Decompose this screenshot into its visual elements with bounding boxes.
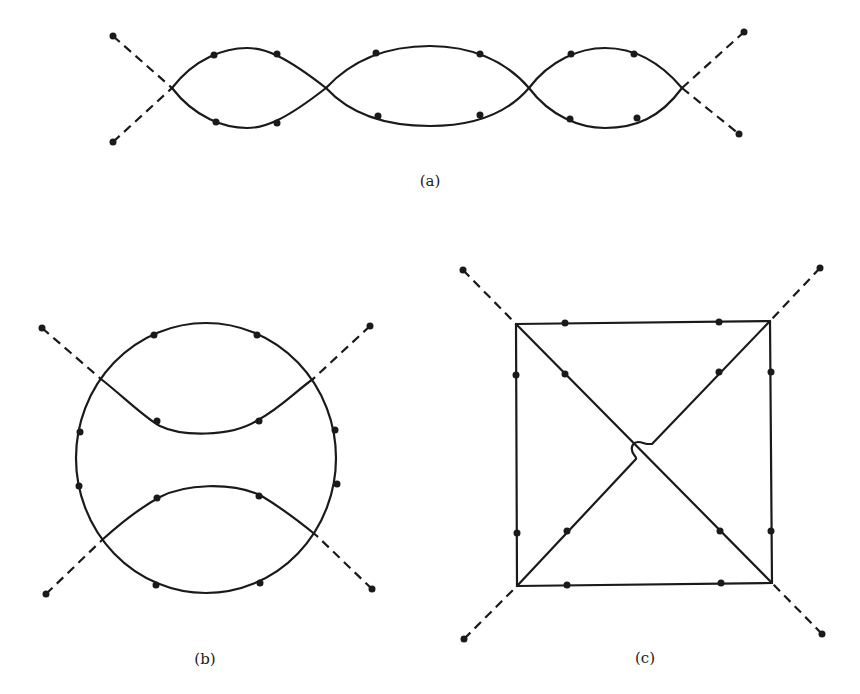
leg-c-top-left [463, 270, 516, 324]
caption-a: (a) [420, 172, 441, 190]
leg-a-top-right [682, 32, 744, 88]
leg-c-bottom-right [772, 583, 822, 634]
caption-c: (c) [635, 649, 655, 667]
panel-a: (a) [110, 29, 748, 191]
leg-b-bottom-right [317, 536, 372, 589]
leg-a-bottom-right [682, 88, 739, 134]
inner-arc-b-upper [101, 379, 313, 434]
figure-canvas: (a) (b) [0, 0, 860, 694]
caption-b: (b) [194, 650, 215, 668]
vertices-b [39, 323, 376, 598]
panel-c: (c) [460, 265, 826, 668]
inner-arc-b-lower [102, 486, 317, 540]
loop-a2-lower [326, 88, 529, 126]
leg-c-top-right [770, 268, 820, 321]
leg-a-top-left [113, 36, 172, 88]
leg-b-bottom-left [46, 540, 102, 594]
leg-b-top-right [313, 326, 370, 379]
diagonal-c-main [516, 324, 772, 583]
leg-b-top-left [42, 328, 101, 379]
leg-c-bottom-left [464, 586, 517, 639]
leg-a-bottom-left [113, 88, 172, 142]
loop-a3-lower [529, 88, 682, 128]
outer-circle-b [76, 323, 336, 593]
loop-a2-upper [326, 46, 529, 88]
loop-a1-lower [172, 88, 326, 128]
loop-a1-upper [172, 48, 326, 88]
loop-a3-upper [529, 48, 682, 88]
panel-b: (b) [39, 323, 376, 669]
